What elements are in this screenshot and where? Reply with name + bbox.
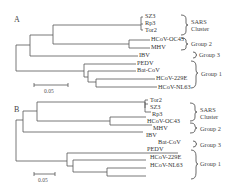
group-label-group1: Group 1 (200, 160, 221, 167)
taxon-hcov-oc43: HCoV-OC43 (151, 36, 184, 42)
group-label-sars-cluster: SARS Cluster (191, 18, 209, 32)
panel-label-b: B (14, 105, 19, 114)
scale-bar-label-b: 0.05 (38, 177, 48, 183)
tree-panel-b: B Tor2 SZ3 Rp3 HCoV-OC43 MHV IBV Bat-CoV… (0, 96, 233, 192)
taxon-mhv: MHV (151, 44, 166, 50)
tree-a-branches (0, 0, 233, 96)
tree-panel-a: A SZ3 Rp3 Tor2 HCoV-OC43 MHV IBV PEDV Ba… (0, 0, 233, 96)
group-label-sars-line1: SARS (200, 106, 218, 113)
group-label-sars-line2: Cluster (200, 113, 218, 120)
group-label-group2: Group 2 (191, 40, 212, 47)
taxon-hcov-229e: HCoV-229E (150, 154, 181, 160)
taxon-ibv: IBV (139, 52, 150, 58)
group-label-group1: Group 1 (201, 70, 222, 77)
taxon-tor2: Tor2 (145, 27, 157, 33)
group-label-group3: Group 3 (200, 141, 221, 148)
group-label-sars-cluster: SARS Cluster (200, 106, 218, 120)
scale-bar-label-a: 0.05 (44, 88, 54, 94)
taxon-hcov-229e: HCoV-229E (156, 75, 187, 81)
taxon-hcov-nl63: HCoV-NL63 (158, 84, 191, 90)
taxon-bat-cov: Bat-CoV (137, 67, 160, 73)
taxon-ibv: IBV (146, 132, 157, 138)
taxon-pedv: PEDV (147, 146, 163, 152)
group-label-group3: Group 3 (199, 51, 220, 58)
group-label-group2: Group 2 (200, 125, 221, 132)
group-label-sars-line1: SARS (191, 18, 209, 25)
taxon-hcov-nl63: HCoV-NL63 (150, 162, 183, 168)
panel-label-a: A (14, 15, 20, 24)
tree-b-branches (0, 96, 233, 192)
group-label-sars-line2: Cluster (191, 25, 209, 32)
